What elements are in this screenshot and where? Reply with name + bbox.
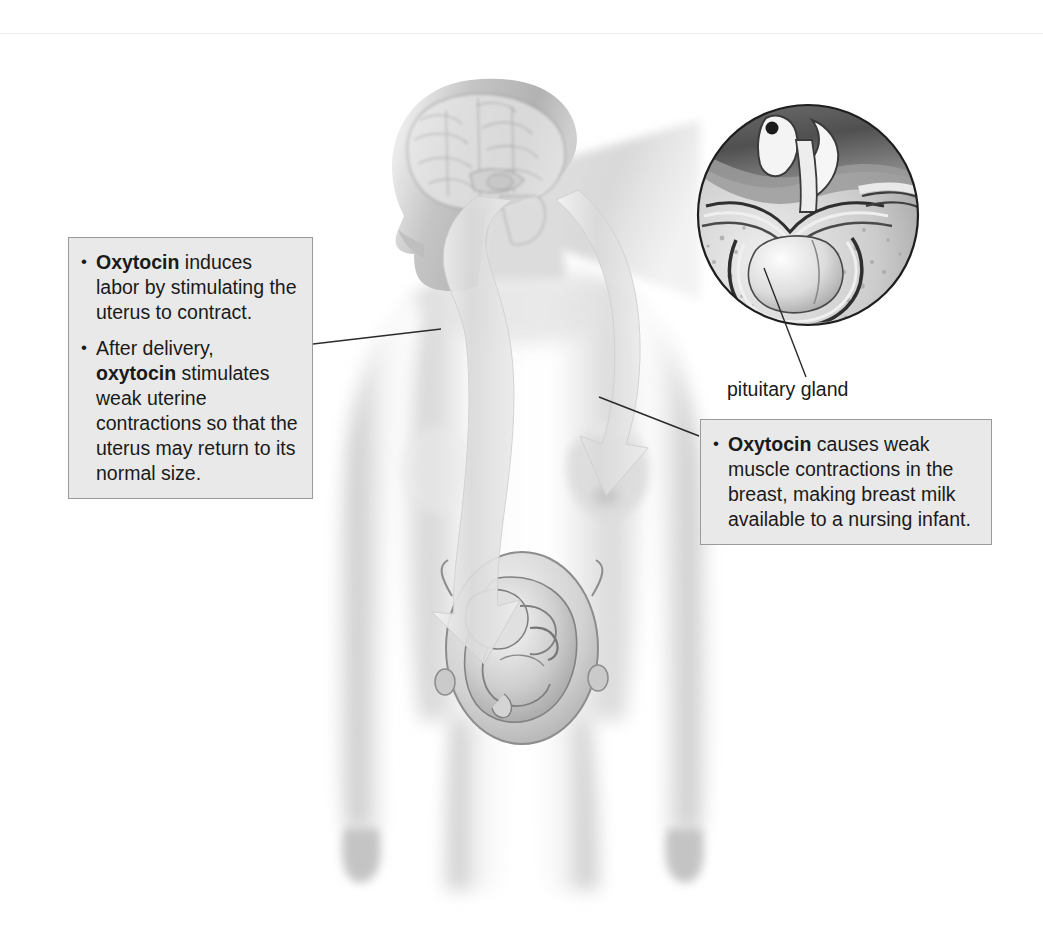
- callout-bold-term: Oxytocin: [96, 251, 179, 273]
- oxytocin-uterus-callout: Oxytocin induces labor by stimulating th…: [68, 237, 313, 499]
- callout-bullet: Oxytocin causes weak muscle contractions…: [713, 432, 977, 532]
- callout-bullet: After delivery, oxytocin stimulates weak…: [81, 336, 298, 486]
- pituitary-gland-inset: [698, 105, 920, 327]
- callout-bullet: Oxytocin induces labor by stimulating th…: [81, 250, 298, 325]
- callout-bullet-list: Oxytocin causes weak muscle contractions…: [713, 432, 977, 532]
- pituitary-gland-label: pituitary gland: [727, 378, 848, 401]
- callout-bold-term: Oxytocin: [728, 433, 811, 455]
- callout-text-pre: After delivery,: [96, 337, 214, 359]
- callout-bold-term: oxytocin: [96, 362, 176, 384]
- diagram-page: pituitary gland Oxytocin induces labor b…: [0, 0, 1043, 928]
- callout-bullet-list: Oxytocin induces labor by stimulating th…: [81, 250, 298, 486]
- oxytocin-breast-callout: Oxytocin causes weak muscle contractions…: [700, 419, 992, 545]
